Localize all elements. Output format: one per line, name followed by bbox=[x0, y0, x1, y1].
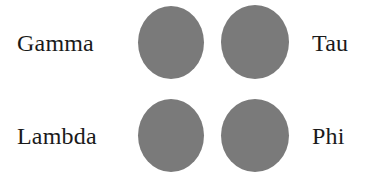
label-tau: Tau bbox=[312, 31, 348, 55]
label-lambda: Lambda bbox=[17, 124, 97, 148]
circle-gamma bbox=[138, 6, 204, 79]
circle-lambda bbox=[138, 99, 204, 172]
circle-phi bbox=[221, 99, 289, 172]
circle-tau bbox=[221, 5, 289, 79]
figure-canvas: Gamma Tau Lambda Phi bbox=[0, 0, 372, 180]
label-gamma: Gamma bbox=[17, 31, 94, 55]
label-phi: Phi bbox=[312, 124, 345, 148]
